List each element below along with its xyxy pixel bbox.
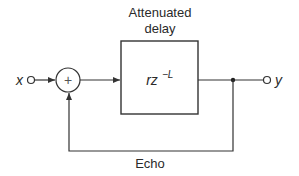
feedback-label: Echo <box>135 156 165 171</box>
output-terminal-icon <box>264 77 271 84</box>
block-title-line2: delay <box>144 21 176 36</box>
input-label: x <box>15 72 24 88</box>
attenuated-delay-block <box>121 41 198 114</box>
output-label: y <box>274 72 283 88</box>
transfer-function-base: rz <box>146 72 158 88</box>
plus-icon: + <box>64 72 72 88</box>
block-title-line1: Attenuated <box>129 5 192 20</box>
echo-block-diagram: Attenuated delay x + rz −L y Echo <box>0 0 299 176</box>
input-terminal-icon <box>28 77 35 84</box>
transfer-function-exponent: −L <box>162 69 173 80</box>
